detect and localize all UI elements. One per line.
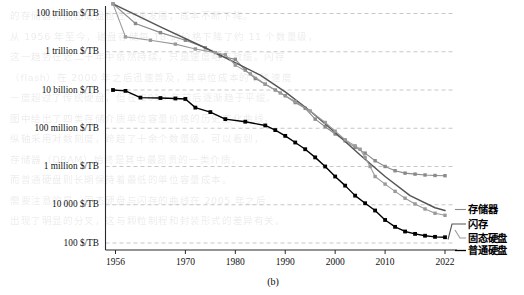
x-tick-label: 1956 <box>106 257 125 267</box>
y-tick-label: 10 000 $/TB <box>0 199 99 209</box>
y-tick-label: 100 $/TB <box>0 238 99 248</box>
series-2 <box>113 4 445 211</box>
x-tick-label: 1990 <box>276 257 295 267</box>
legend-item-3: 固态硬盘 <box>468 233 507 244</box>
series-4 <box>111 88 447 239</box>
axis-lines <box>106 6 458 254</box>
legend-item-4: 普通硬盘 <box>468 245 507 256</box>
figure-caption-text: (b) <box>267 276 279 287</box>
legend-item-2: 闪存 <box>468 219 488 230</box>
figure-caption: (b) <box>0 276 524 287</box>
chart-canvas <box>0 0 524 295</box>
x-tick-label: 2010 <box>376 257 395 267</box>
grid-lines <box>106 14 456 244</box>
legend-connectors <box>448 210 466 251</box>
storage-cost-chart: 100 trillion $/TB1 trillion $/TB10 billi… <box>0 0 524 295</box>
x-tick-label: 1980 <box>226 257 245 267</box>
y-tick-label: 1 million $/TB <box>0 161 99 171</box>
x-tick-label: 2000 <box>326 257 345 267</box>
y-tick-label: 1 trillion $/TB <box>0 46 99 56</box>
y-tick-label: 10 billion $/TB <box>0 85 99 95</box>
x-tick-label: 2022 <box>436 257 455 267</box>
y-tick-label: 100 trillion $/TB <box>0 8 99 18</box>
legend-item-1: 存储器 <box>468 204 497 215</box>
y-tick-label: 100 million $/TB <box>0 123 99 133</box>
x-tick-label: 1970 <box>176 257 195 267</box>
